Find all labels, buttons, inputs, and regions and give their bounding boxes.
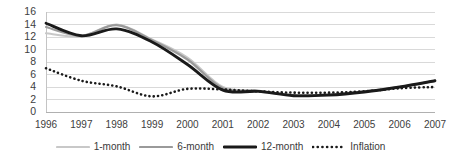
- x-tick-label: 1996: [27, 120, 65, 130]
- x-tick-label: 1998: [98, 120, 136, 130]
- legend-item-12-month[interactable]: 12-month: [223, 142, 303, 152]
- legend-label: 1-month: [94, 142, 131, 152]
- y-tick-label: 4: [14, 81, 36, 92]
- x-tick-label: 2001: [204, 120, 242, 130]
- y-tick-label: 16: [14, 6, 36, 17]
- legend-swatch-inflation-icon: [312, 142, 346, 152]
- x-tick-label: 2002: [239, 120, 277, 130]
- y-tick-label: 0: [14, 106, 36, 117]
- legend-item-6-month[interactable]: 6-month: [139, 142, 214, 152]
- legend-item-1-month[interactable]: 1-month: [56, 142, 131, 152]
- series-paths: [46, 23, 435, 96]
- x-tick-label: 2000: [168, 120, 206, 130]
- legend-swatch-12-month-icon: [223, 142, 257, 152]
- y-tick-label: 8: [14, 56, 36, 67]
- y-tick-label: 2: [14, 94, 36, 105]
- x-tick-label: 2007: [416, 120, 451, 130]
- x-tick-label: 2004: [310, 120, 348, 130]
- legend-label: 6-month: [177, 142, 214, 152]
- x-tick-label: 1999: [133, 120, 171, 130]
- x-tick-label: 2005: [345, 120, 383, 130]
- legend-swatch-6-month-icon: [139, 142, 173, 152]
- y-tick-label: 6: [14, 69, 36, 80]
- legend-swatch-1-month-icon: [56, 142, 90, 152]
- x-tick-label: 2003: [275, 120, 313, 130]
- y-tick-label: 14: [14, 19, 36, 30]
- legend-item-inflation[interactable]: Inflation: [312, 142, 385, 152]
- x-tick-label: 1997: [62, 120, 100, 130]
- legend-label: Inflation: [350, 142, 385, 152]
- legend-label: 12-month: [261, 142, 303, 152]
- y-tick-label: 10: [14, 44, 36, 55]
- x-tick-label: 2006: [381, 120, 419, 130]
- y-tick-label: 12: [14, 31, 36, 42]
- chart-legend: 1-month6-month12-monthInflation: [0, 138, 441, 156]
